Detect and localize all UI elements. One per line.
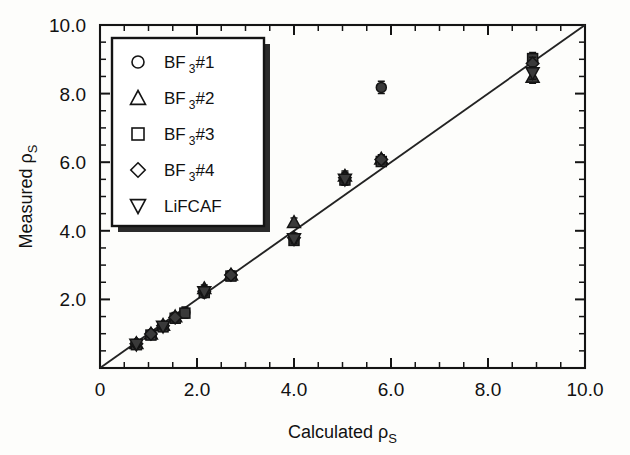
y-axis-title: Measured ρS: [16, 144, 40, 248]
y-tick-label: 8.0: [60, 84, 86, 105]
chart-page: 02.04.06.08.010.02.04.06.08.010.0Calcula…: [0, 0, 630, 455]
scatter-chart: 02.04.06.08.010.02.04.06.08.010.0Calcula…: [0, 0, 630, 455]
x-axis-subscript: S: [388, 431, 397, 446]
y-axis-title-group: Measured ρS: [16, 144, 40, 248]
x-tick-label: 0: [95, 379, 106, 400]
x-axis-title: Calculated ρS: [288, 422, 397, 446]
y-tick-label: 10.0: [49, 15, 86, 36]
y-tick-label: 4.0: [60, 221, 86, 242]
x-tick-label: 10.0: [567, 379, 604, 400]
data-point-circle: [376, 82, 386, 92]
x-tick-label: 2.0: [184, 379, 210, 400]
x-tick-label: 4.0: [281, 379, 307, 400]
legend-label: LiFCAF: [164, 197, 222, 216]
x-tick-label: 8.0: [475, 379, 501, 400]
x-tick-label: 6.0: [378, 379, 404, 400]
y-tick-label: 2.0: [60, 289, 86, 310]
data-point-triangle-up: [288, 216, 301, 228]
y-tick-label: 6.0: [60, 152, 86, 173]
